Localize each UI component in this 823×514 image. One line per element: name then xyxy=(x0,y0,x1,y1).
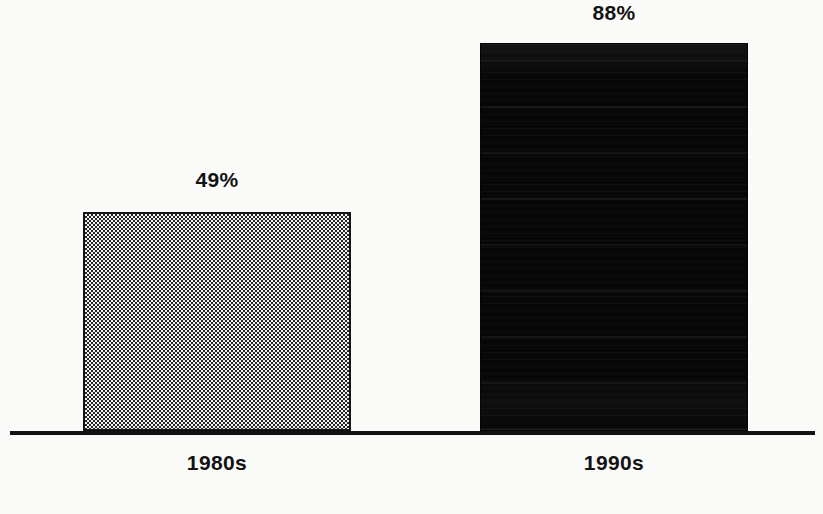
bar-chart: 49% 88% 1980s 1990s xyxy=(0,0,823,514)
baseline-axis xyxy=(10,431,815,435)
bar-1980s xyxy=(83,212,351,431)
bar-value-label-1980s: 49% xyxy=(83,168,351,192)
bar-1990s xyxy=(480,43,748,431)
bar-value-label-1990s: 88% xyxy=(480,1,748,25)
chart-title xyxy=(0,0,520,7)
category-label-1990s: 1990s xyxy=(480,451,748,475)
category-label-1980s: 1980s xyxy=(83,451,351,475)
